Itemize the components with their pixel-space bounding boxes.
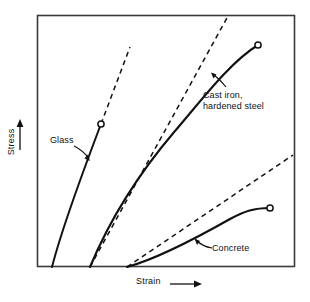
glass-fracture-marker — [98, 121, 104, 127]
x-axis-title: Strain — [136, 276, 161, 286]
cast-iron-fracture-marker — [255, 42, 261, 48]
series-label-concrete: Concrete — [212, 243, 249, 254]
concrete-fracture-marker — [267, 205, 273, 211]
cast-iron-label-line-1: Cast iron, — [203, 90, 243, 100]
series-label-glass: Glass — [50, 135, 74, 146]
cast-iron-label-line-2: hardened steel — [203, 101, 264, 111]
y-axis-arrow — [17, 119, 24, 150]
y-axis-title: Stress — [6, 119, 16, 165]
x-axis-arrow — [170, 281, 202, 288]
series-label-cast-iron: Cast iron,hardened steel — [203, 90, 264, 112]
stress-strain-figure: Strain Stress Glass Cast iron,hardened s… — [0, 0, 310, 302]
plot-canvas — [0, 0, 310, 302]
